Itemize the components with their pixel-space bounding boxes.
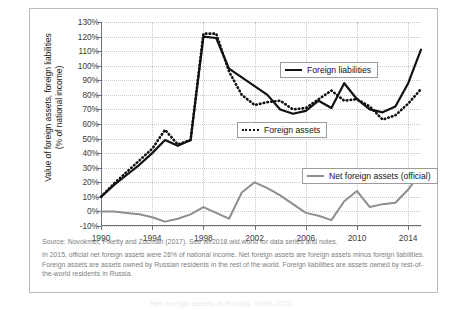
gridline-horizontal xyxy=(101,226,421,227)
y-axis-tick-label: 100% xyxy=(57,61,99,71)
legend-swatch-gray-line-icon xyxy=(307,175,324,177)
y-axis-tick-label: 60% xyxy=(57,119,99,129)
y-axis-tick-label: 130% xyxy=(57,17,99,27)
x-axis-tick-mark xyxy=(152,226,153,230)
legend-swatch-dotted-line-icon xyxy=(242,129,259,131)
legend-item-foreign-liabilities[interactable]: Foreign liabilities xyxy=(280,62,378,78)
x-axis-tick-mark xyxy=(101,226,102,230)
notes-body: In 2015, official net foreign assets wer… xyxy=(42,250,427,278)
chart-area: Value of foreign assets, foreign liabili… xyxy=(30,9,439,231)
x-axis-tick-mark xyxy=(255,226,256,230)
y-axis-tick-label: -10% xyxy=(57,221,99,231)
y-axis-tick-label: 110% xyxy=(57,46,99,56)
x-axis-tick-mark xyxy=(306,226,307,230)
figure-notes: Source: Novokmet, Piketty and Zucman (20… xyxy=(42,237,427,283)
y-axis-tick-label: 30% xyxy=(57,163,99,173)
y-axis-tick-label: 50% xyxy=(57,134,99,144)
legend-swatch-solid-line-icon xyxy=(285,69,302,71)
y-axis-tick-label: 40% xyxy=(57,148,99,158)
x-axis-tick-mark xyxy=(203,226,204,230)
y-axis-title-line-1: Value of foreign assets, foreign liabili… xyxy=(43,23,54,193)
legend-label-foreign-liabilities: Foreign liabilities xyxy=(307,65,371,75)
y-axis-tick-label: 0% xyxy=(57,206,99,216)
legend-item-foreign-assets[interactable]: Foreign assets xyxy=(237,122,327,138)
y-axis-tick-label: 10% xyxy=(57,192,99,202)
notes-source: Source: Novokmet, Piketty and Zucman (20… xyxy=(42,237,427,246)
legend-label-net-foreign-assets: Net foreign assets (official) xyxy=(329,171,431,181)
legend-label-foreign-assets: Foreign assets xyxy=(264,125,320,135)
x-axis-tick-mark xyxy=(357,226,358,230)
x-axis-tick-mark xyxy=(408,226,409,230)
y-axis-tick-label: 70% xyxy=(57,104,99,114)
caption-ghost-text: Net foreign assets in Russia, 1990-2015 xyxy=(150,299,292,308)
y-axis-tick-label: 120% xyxy=(57,32,99,42)
figure-frame: Value of foreign assets, foreign liabili… xyxy=(29,8,438,293)
y-axis-tick-label: 80% xyxy=(57,90,99,100)
legend-item-net-foreign-assets[interactable]: Net foreign assets (official) xyxy=(302,168,438,184)
y-axis-tick-label: 90% xyxy=(57,75,99,85)
y-axis-tick-label: 20% xyxy=(57,177,99,187)
